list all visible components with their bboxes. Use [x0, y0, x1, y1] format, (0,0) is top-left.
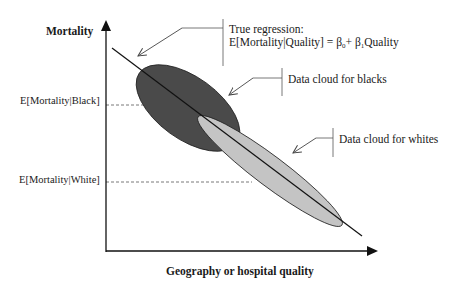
regression-callout-title: True regression:: [229, 23, 304, 36]
diagram-canvas: Mortality Geography or hospital quality …: [0, 0, 460, 284]
y-axis-arrowhead-icon: [101, 20, 111, 31]
whites-callout-label: Data cloud for whites: [339, 133, 439, 145]
whites-callout-arrow-icon: [293, 138, 316, 153]
y-axis-title: Mortality: [46, 25, 94, 38]
blacks-callout-arrow-icon: [229, 78, 253, 95]
regression-callout-arrow-icon: [138, 28, 182, 56]
whites-callout: Data cloud for whites: [293, 128, 439, 157]
blacks-callout: Data cloud for blacks: [229, 68, 387, 96]
regression-formula: E[Mortality|Quality] = β0+ β1Quality: [229, 36, 399, 50]
x-axis-title: Geography or hospital quality: [166, 265, 314, 278]
y-tick-white-mean: E[Mortality|White]: [19, 174, 100, 185]
blacks-callout-label: Data cloud for blacks: [288, 73, 387, 85]
regression-callout: True regression: E[Mortality|Quality] = …: [138, 19, 399, 66]
x-axis-arrowhead-icon: [367, 246, 378, 256]
y-tick-black-mean: E[Mortality|Black]: [20, 95, 100, 106]
